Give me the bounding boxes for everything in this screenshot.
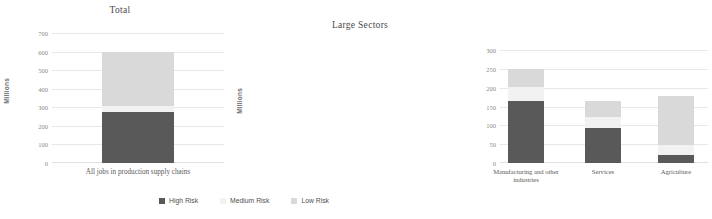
- bar-segment-high-risk: [508, 101, 544, 163]
- y-tick-label: 0: [45, 160, 48, 167]
- y-tick-label: 250: [486, 65, 496, 72]
- bar-segment-high-risk: [658, 155, 694, 163]
- bar-segment-low-risk: [508, 69, 544, 87]
- y-tick-label: 600: [38, 48, 48, 55]
- bar-segment-low-risk: [585, 101, 621, 117]
- legend-item-high-risk[interactable]: High Risk: [159, 197, 198, 204]
- bar-manufacturing-and-other-industries[interactable]: Manufacturing and other industries: [508, 69, 544, 163]
- plot-area-total: 700 600 500 400 300 200 100 0 All jobs i…: [52, 33, 224, 163]
- y-tick-label: 100: [38, 141, 48, 148]
- bar-segment-low-risk: [102, 52, 174, 107]
- bar-segment-high-risk: [585, 128, 621, 163]
- x-tick-label: Agriculture: [637, 168, 712, 176]
- chart-title-large-sectors: Large Sectors: [232, 20, 488, 30]
- x-tick-label: All jobs in production supply chains: [58, 168, 218, 176]
- legend-swatch-low-risk: [291, 198, 297, 204]
- bar-segment-high-risk: [102, 112, 174, 163]
- y-tick-label: 200: [486, 84, 496, 91]
- bar-services[interactable]: Services: [585, 101, 621, 163]
- chart-legend: High Risk Medium Risk Low Risk: [0, 197, 488, 204]
- y-tick-label: 700: [38, 30, 48, 37]
- legend-swatch-medium-risk: [220, 198, 226, 204]
- legend-label: High Risk: [169, 197, 198, 204]
- legend-label: Medium Risk: [230, 197, 269, 204]
- legend-item-medium-risk[interactable]: Medium Risk: [220, 197, 269, 204]
- chart-panel-large-sectors: Large Sectors 300 250 200 150 100 50 0 M…: [232, 0, 488, 196]
- y-tick-label: 150: [486, 103, 496, 110]
- y-tick-label: 400: [38, 85, 48, 92]
- y-tick-label: 300: [486, 47, 496, 54]
- y-tick-label: 500: [38, 67, 48, 74]
- bar-segment-medium-risk: [585, 117, 621, 128]
- legend-swatch-high-risk: [159, 198, 165, 204]
- x-tick-label: Manufacturing and other industries: [487, 168, 565, 185]
- bar-segment-medium-risk: [658, 145, 694, 154]
- legend-label: Low Risk: [301, 197, 329, 204]
- chart-title-total: Total: [0, 5, 240, 15]
- plot-area-large-sectors: 300 250 200 150 100 50 0 Manufacturing a…: [500, 50, 708, 163]
- y-axis-label-large-sectors: Millions: [236, 88, 243, 114]
- bar-segment-low-risk: [658, 96, 694, 145]
- legend-item-low-risk[interactable]: Low Risk: [291, 197, 329, 204]
- y-axis-label-total: Millions: [3, 78, 10, 104]
- bar-all-jobs-in-production-supply-chains[interactable]: All jobs in production supply chains: [102, 52, 174, 163]
- x-tick-label: Services: [564, 168, 642, 176]
- y-tick-label: 0: [493, 160, 496, 167]
- gridline: [500, 50, 708, 51]
- y-tick-label: 50: [490, 141, 497, 148]
- bar-agriculture[interactable]: Agriculture: [658, 96, 694, 163]
- y-tick-label: 300: [38, 104, 48, 111]
- gridline: [52, 33, 224, 34]
- y-tick-label: 200: [38, 122, 48, 129]
- chart-panel-total: Total Millions 700 600 500 400 300 200 1…: [0, 0, 240, 196]
- y-tick-label: 100: [486, 122, 496, 129]
- bar-segment-medium-risk: [508, 87, 544, 101]
